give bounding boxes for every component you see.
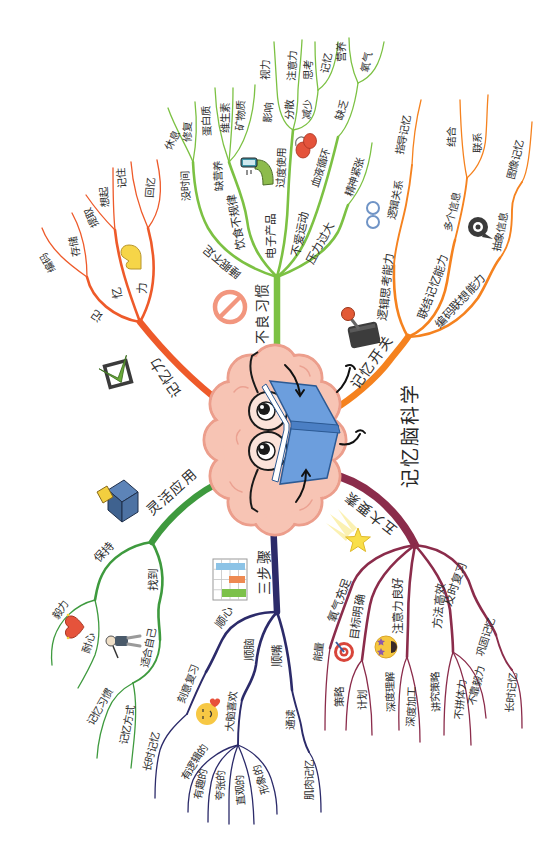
- subtopic-label: 通读: [284, 709, 297, 730]
- branch-label: 不良习惯: [254, 282, 270, 344]
- branch-line: [315, 42, 318, 90]
- leaf-label: 修复: [181, 121, 194, 142]
- leaf-label: 影响: [261, 103, 275, 124]
- branch-line: [394, 265, 408, 337]
- prohibition-icon: [215, 292, 245, 322]
- leaf-label: 形象的: [251, 764, 272, 796]
- subtopic-label: 电子产品: [264, 213, 278, 258]
- mindmap-title: 记忆脑科学: [399, 383, 421, 488]
- branch-line: [193, 102, 196, 162]
- leaf-label: 氧气: [358, 50, 374, 73]
- branch-line: [115, 230, 140, 322]
- branch-line: [407, 545, 415, 657]
- subtopic-label: 缺营养: [211, 160, 224, 191]
- subtopic-label: 目标明确: [347, 594, 367, 641]
- leaf-label: 长时记忆: [140, 731, 162, 773]
- leaf-label: 分散: [283, 99, 296, 120]
- leaf-label: 维生素: [219, 103, 231, 133]
- branch-line: [325, 648, 330, 730]
- leaf-label: 注意力: [285, 51, 298, 81]
- branch-label: 灵活应用: [144, 465, 201, 518]
- subtopic-label: 顺嘴: [270, 644, 284, 667]
- phone-hand-icon: [241, 158, 273, 185]
- branch-line: [460, 100, 467, 178]
- central-brain-image: [204, 345, 365, 535]
- target-icon: [334, 642, 354, 662]
- schedule-chart-icon: [213, 559, 247, 600]
- leaf-label: 存储: [66, 235, 81, 258]
- leaf-label: 讲究策略: [428, 671, 441, 712]
- eye-bubble-icon: [468, 217, 493, 239]
- subtopic-label: 记: [88, 307, 106, 325]
- leaf-label: 指导记忆: [394, 114, 413, 155]
- checkbox-icon: [97, 355, 133, 389]
- subtopic-label: 饮食不规律: [224, 192, 248, 251]
- subtopic-label: 逻辑关系: [385, 179, 405, 221]
- subtopic-label: 力: [135, 282, 149, 293]
- leaf-label: 记住: [114, 167, 127, 189]
- leaf-label: 能量: [311, 640, 326, 662]
- branch-line: [238, 700, 242, 745]
- leaf-label: 策略: [333, 686, 345, 707]
- box-icon: [97, 480, 138, 522]
- branch-line: [496, 635, 512, 670]
- subtopic-label: 过度使用: [274, 148, 287, 188]
- branch-line: [522, 122, 532, 182]
- leaf-label: 想起: [97, 186, 111, 208]
- leaf-label: 直观的: [233, 775, 248, 806]
- leaf-label: 回忆: [143, 178, 157, 199]
- branch-line: [444, 652, 453, 735]
- subtopic-label: 忆: [109, 286, 125, 300]
- mindmap-canvas: 记忆脑科学 记忆力 记 忆 力 编码 存储 提取 想起 记住 回忆 不良习惯 睡…: [0, 0, 554, 848]
- subtopic-label: 注意力良好: [391, 577, 405, 634]
- lungs-icon: [296, 134, 317, 159]
- leaf-label: 结合: [445, 126, 458, 147]
- leaf-label: 营养: [335, 41, 347, 62]
- subtopic-label: 刻意复习: [175, 663, 201, 705]
- star-eyes-emoji-icon: [375, 636, 397, 658]
- branch-line: [140, 228, 154, 322]
- leaf-label: 精神紧张: [342, 155, 366, 198]
- smiley-heart-icon: [196, 699, 220, 725]
- leaf-label: 编码: [38, 251, 58, 274]
- subtopic-label: 多个信息: [441, 191, 463, 233]
- subtopic-label: 血液循环: [308, 147, 332, 189]
- branch-line: [412, 100, 421, 165]
- leaf-label: 联系: [471, 133, 484, 153]
- flexed-arm-icon: [121, 245, 141, 269]
- leaf-label: 视力: [259, 60, 271, 80]
- leaf-label: 矿物质: [233, 101, 248, 132]
- leaf-label: 减少: [300, 100, 314, 121]
- leaf-label: 夸张的: [213, 771, 228, 802]
- leaf-label: 蛋白质: [199, 106, 212, 136]
- leaf-label: 思考: [302, 60, 314, 80]
- subtopic-label: 找到: [146, 568, 161, 591]
- leaf-label: 肌肉记忆: [303, 760, 315, 800]
- leaf-label: 深度理解: [383, 671, 396, 712]
- leaf-label: 图像记忆: [504, 139, 526, 181]
- leaf-label: 提取: [81, 205, 101, 229]
- branch-line: [155, 714, 187, 798]
- subtopic-label: 巩固记忆: [473, 616, 497, 658]
- leaf-label: 计划: [356, 690, 368, 710]
- subtopic-label: 大脑喜欢: [223, 691, 239, 733]
- leaf-label: 长时记忆: [503, 673, 518, 714]
- leaf-label: 耐心: [79, 631, 97, 655]
- branch-label: 记忆力: [145, 353, 185, 400]
- heart-icon: [65, 614, 84, 640]
- leaf-label: 记忆习惯: [85, 686, 116, 728]
- glasses-icon: [367, 202, 379, 228]
- subtopic-label: 顺脑: [242, 638, 257, 661]
- leaf-label: 深度加工: [404, 687, 417, 727]
- branch-label: 三步骤: [256, 549, 272, 596]
- leaf-label: 缺乏: [332, 98, 350, 122]
- branch-line: [349, 38, 358, 83]
- person-icon: [106, 636, 140, 658]
- subtopic-label: 没时间: [178, 171, 191, 201]
